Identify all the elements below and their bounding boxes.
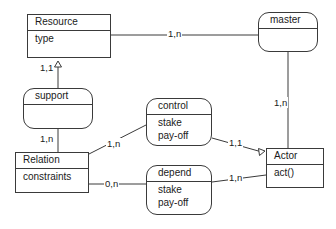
node-relation-attributes: constraints [16,168,88,185]
node-actor-title: Actor [267,149,323,164]
node-actor-attributes: act() [267,164,323,181]
label-depend-actor: 1,n [228,172,243,183]
node-relation-title: Relation [16,153,88,168]
node-master[interactable]: master [258,12,318,52]
diagram-canvas: Resource type master support control sta… [0,0,336,229]
node-relation[interactable]: Relation constraints [15,152,89,193]
label-resource-support: 1,1 [39,62,54,73]
node-control[interactable]: control stake pay-off [146,98,212,146]
attribute-stake: stake [158,183,204,196]
node-master-attributes [259,28,317,42]
node-depend[interactable]: depend stake pay-off [146,165,212,215]
node-resource-title: Resource [28,15,110,30]
node-depend-title: depend [147,166,211,181]
node-support-title: support [24,89,92,104]
node-depend-attributes: stake pay-off [147,181,211,211]
node-actor[interactable]: Actor act() [266,148,324,188]
node-support[interactable]: support [23,88,93,129]
label-resource-master: 1,n [167,28,182,39]
attribute-stake: stake [158,116,204,129]
label-support-relation: 1,n [39,133,54,144]
attribute-constraints: constraints [23,170,81,183]
node-resource[interactable]: Resource type [27,14,111,58]
triangle-arrowhead-resource [55,61,62,67]
attribute-payoff: pay-off [158,129,204,142]
label-control-actor: 1,1 [228,137,243,148]
triangle-arrowhead-actor [259,149,266,156]
attribute-payoff: pay-off [158,196,204,209]
attribute-act: act() [274,166,316,179]
label-master-actor: 1,n [273,97,288,108]
node-control-title: control [147,99,211,114]
node-control-attributes: stake pay-off [147,114,211,144]
label-relation-depend: 0,n [104,178,119,189]
node-support-attributes [24,104,92,118]
node-master-title: master [259,13,317,28]
node-resource-attributes: type [28,30,110,47]
attribute-type: type [35,32,103,45]
label-relation-control: 1,n [106,138,121,149]
